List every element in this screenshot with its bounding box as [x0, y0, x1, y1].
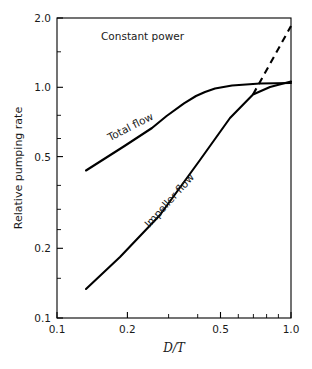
x-tick-label-0.1: 0.1: [49, 323, 66, 335]
x-tick-label-0.5: 0.5: [212, 323, 229, 335]
plot-area-background: [57, 18, 291, 318]
y-axis-title: Relative pumping rate: [12, 107, 25, 230]
y-tick-label-0.5: 0.5: [34, 151, 51, 163]
y-tick-label-2.0: 2.0: [34, 12, 51, 24]
x-tick-label-1.0: 1.0: [283, 323, 300, 335]
y-tick-label-1.0: 1.0: [34, 81, 51, 93]
x-axis-title: D/T: [162, 341, 186, 355]
log-log-chart: 2.0 1.0 0.5 0.2 0.1 0.1 0.2 0.5 1.0 D/T …: [0, 0, 312, 369]
chart-figure: 2.0 1.0 0.5 0.2 0.1 0.1 0.2 0.5 1.0 D/T …: [0, 0, 312, 369]
x-tick-label-0.2: 0.2: [119, 323, 136, 335]
y-tick-label-0.2: 0.2: [34, 242, 51, 254]
annotation-constant-power: Constant power: [101, 30, 185, 42]
